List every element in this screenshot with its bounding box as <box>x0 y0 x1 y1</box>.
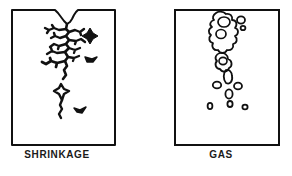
gas-pore-3 <box>241 26 246 30</box>
shrinkage-void-star-3 <box>54 84 69 100</box>
gas-pore-10 <box>208 103 213 109</box>
gas-pore-6 <box>213 82 221 89</box>
panel-shrinkage: SHRINKAGE <box>0 0 146 176</box>
casting-defects-figure: SHRINKAGE GAS <box>0 0 292 176</box>
shrinkage-branch-left-1 <box>45 25 66 33</box>
gas-pore-lobe-4a <box>219 57 227 64</box>
gas-pore-cluster-4 <box>216 53 232 72</box>
gas-pore-8 <box>225 89 232 98</box>
shrinkage-branch-right-2 <box>69 39 85 44</box>
shrinkage-void-spike-5 <box>74 107 86 113</box>
gas-illustration <box>146 0 292 150</box>
gas-pore-11 <box>242 105 247 110</box>
shrinkage-branch-left-4 <box>47 48 65 54</box>
shrinkage-branch-left-5 <box>42 58 65 67</box>
gas-pore-lobe-1b <box>216 30 226 39</box>
shrinkage-branch-left-3 <box>50 44 66 49</box>
gas-pore-9 <box>227 101 232 107</box>
gas-pore-lobe-1a <box>218 17 230 27</box>
shrinkage-void-spike-2 <box>85 57 97 62</box>
gas-section-outline <box>175 10 279 145</box>
shrinkage-branch-right-3 <box>69 48 80 53</box>
panel-gas: GAS <box>146 0 292 176</box>
shrinkage-illustration <box>0 0 146 150</box>
shrinkage-branch-right-1 <box>69 29 84 35</box>
gas-pore-5 <box>224 70 232 84</box>
shrinkage-branch-left-2 <box>51 33 66 38</box>
caption-gas: GAS <box>148 149 292 161</box>
shrinkage-void-crack-4 <box>59 100 62 118</box>
gas-pore-2 <box>237 16 245 23</box>
gas-pore-7 <box>234 83 242 90</box>
caption-shrinkage: SHRINKAGE <box>0 149 130 161</box>
shrinkage-branch-right-4 <box>68 56 79 61</box>
